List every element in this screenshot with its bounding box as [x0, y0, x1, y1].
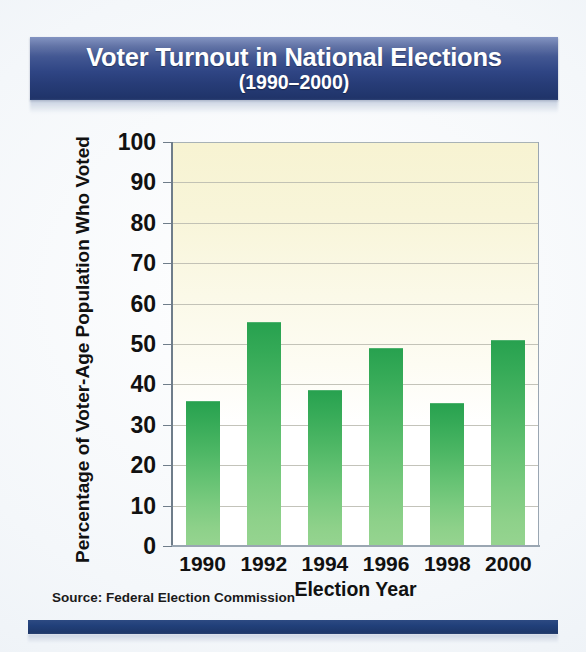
chart-title-line-1: Voter Turnout in National Elections — [86, 44, 502, 71]
x-tick-label-1992: 1992 — [240, 552, 287, 576]
bar-1996[interactable] — [369, 348, 403, 546]
x-tick-label-2000: 2000 — [485, 552, 532, 576]
y-tick-label-60: 60 — [100, 290, 156, 317]
y-tick-label-70: 70 — [100, 250, 156, 277]
bar-1992[interactable] — [247, 322, 281, 546]
bar-2000[interactable] — [491, 340, 525, 546]
y-tick-mark-40 — [163, 384, 172, 385]
y-tick-mark-70 — [163, 263, 172, 264]
x-axis-line — [171, 545, 540, 547]
y-tick-label-50: 50 — [100, 331, 156, 358]
x-tick-label-1998: 1998 — [424, 552, 471, 576]
y-tick-label-30: 30 — [100, 411, 156, 438]
y-tick-mark-0 — [163, 546, 172, 547]
y-tick-label-20: 20 — [100, 452, 156, 479]
bar-1994[interactable] — [308, 390, 342, 546]
chart-title-line-2: (1990–2000) — [239, 71, 350, 93]
bar-series — [172, 142, 538, 546]
plot-area — [172, 142, 539, 546]
bottom-accent-bar — [28, 620, 558, 634]
source-note: Source: Federal Election Commission — [52, 590, 295, 605]
y-tick-mark-50 — [163, 344, 172, 345]
y-tick-mark-100 — [163, 142, 172, 143]
y-tick-mark-60 — [163, 304, 172, 305]
y-tick-label-100: 100 — [100, 129, 156, 156]
y-tick-mark-10 — [163, 506, 172, 507]
y-tick-label-90: 90 — [100, 169, 156, 196]
chart-figure: Voter Turnout in National Elections (199… — [0, 0, 586, 652]
bar-1998[interactable] — [430, 403, 464, 546]
y-tick-label-80: 80 — [100, 209, 156, 236]
y-tick-mark-90 — [163, 182, 172, 183]
bottom-accent-bar-reflection — [28, 634, 558, 643]
y-axis-title-text: Percentage of Voter-Age Population Who V… — [71, 137, 92, 564]
banner-reflection — [30, 100, 558, 113]
y-tick-label-10: 10 — [100, 492, 156, 519]
x-tick-label-1994: 1994 — [302, 552, 349, 576]
y-tick-label-0: 0 — [100, 533, 156, 560]
chart-title-banner: Voter Turnout in National Elections (199… — [30, 37, 558, 100]
y-tick-label-40: 40 — [100, 371, 156, 398]
y-tick-mark-80 — [163, 223, 172, 224]
y-tick-mark-30 — [163, 425, 172, 426]
y-tick-mark-20 — [163, 465, 172, 466]
x-tick-label-1996: 1996 — [363, 552, 410, 576]
x-tick-label-1990: 1990 — [179, 552, 226, 576]
bar-1990[interactable] — [186, 401, 220, 546]
